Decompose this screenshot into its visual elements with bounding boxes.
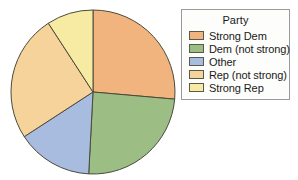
legend: Party Strong Dem Dem (not strong) Other …: [181, 9, 290, 100]
legend-item-strong-rep[interactable]: Strong Rep: [186, 81, 285, 94]
pie-slice[interactable]: [89, 92, 175, 174]
legend-item-strong-dem[interactable]: Strong Dem: [186, 29, 285, 42]
legend-item-label: Strong Rep: [209, 82, 264, 94]
legend-swatch-icon: [189, 44, 204, 53]
legend-swatch-icon: [189, 70, 204, 79]
pie-chart: Party Strong Dem Dem (not strong) Other …: [0, 0, 298, 180]
legend-item-label: Rep (not strong): [209, 69, 287, 81]
legend-title: Party: [186, 14, 285, 27]
legend-swatch-icon: [189, 31, 204, 40]
pie-slice[interactable]: [93, 10, 175, 99]
legend-item-label: Dem (not strong): [209, 43, 290, 55]
legend-item-dem-not-strong[interactable]: Dem (not strong): [186, 42, 285, 55]
legend-swatch-icon: [189, 83, 204, 92]
legend-swatch-icon: [189, 57, 204, 66]
legend-item-label: Strong Dem: [209, 30, 267, 42]
legend-item-rep-not-strong[interactable]: Rep (not strong): [186, 68, 285, 81]
legend-item-other[interactable]: Other: [186, 55, 285, 68]
pie-slices: [11, 10, 175, 174]
legend-item-label: Other: [209, 56, 236, 68]
